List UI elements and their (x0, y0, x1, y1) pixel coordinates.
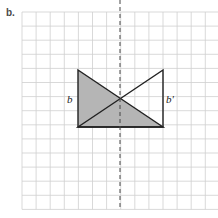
reflection-diagram: b b' (0, 0, 218, 218)
label-b: b (67, 93, 73, 105)
label-b-prime: b' (166, 93, 175, 105)
